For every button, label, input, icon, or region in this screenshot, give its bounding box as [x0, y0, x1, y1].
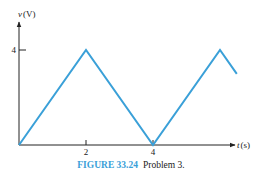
y-axis-unit: (V): [23, 9, 36, 19]
chart: 244 v(V) t(s): [0, 0, 262, 160]
figure-caption: FIGURE 33.24Problem 3.: [0, 160, 262, 170]
figure-caption-text: Problem 3.: [143, 160, 185, 170]
x-tick-label: 2: [84, 147, 89, 157]
x-axis-label: t(s): [237, 140, 250, 150]
x-axis-unit: (s): [241, 140, 251, 150]
y-axis-variable: v: [18, 9, 22, 19]
y-axis-label: v(V): [18, 9, 36, 19]
series-line-v: [19, 50, 237, 145]
y-tick-label: 4: [12, 45, 17, 55]
figure-number: FIGURE 33.24: [77, 160, 138, 170]
x-tick-label: 4: [151, 147, 156, 157]
